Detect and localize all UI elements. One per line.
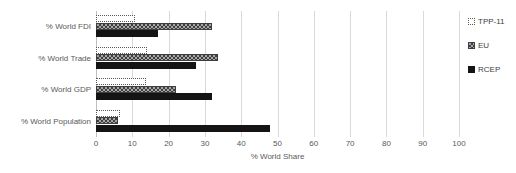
bar-rcep-world-population [96, 125, 270, 132]
category-label-world-trade: % World Trade [38, 54, 91, 64]
bar-eu-world-trade [96, 54, 218, 61]
x-tick-label-20: 20 [164, 139, 173, 148]
category-label-world-gdp: % World GDP [41, 85, 91, 95]
x-tick-label-70: 70 [346, 139, 355, 148]
bar-group-world-trade [96, 43, 459, 75]
value-axis: 0102030405060708090100 [96, 137, 459, 151]
bar-rcep-world-gdp [96, 93, 212, 100]
bar-tpp11-world-trade [96, 47, 147, 54]
bar-chart: % World FDI % World Trade % World GDP % … [0, 0, 516, 173]
legend-item-eu[interactable]: EU [468, 40, 516, 50]
legend-item-tpp11[interactable]: TPP-11 [468, 16, 516, 26]
x-tick-label-80: 80 [382, 139, 391, 148]
x-axis-title: % World Share [96, 152, 459, 161]
bar-rcep-world-trade [96, 62, 196, 69]
legend: TPP-11 EU RCEP [468, 16, 516, 88]
bar-eu-world-gdp [96, 86, 176, 93]
gridline-100 [459, 11, 460, 137]
legend-swatch-rcep-icon [468, 66, 475, 73]
bar-group-world-population [96, 106, 459, 138]
x-tick-label-60: 60 [309, 139, 318, 148]
bar-tpp11-world-gdp [96, 78, 146, 85]
x-tick-label-90: 90 [418, 139, 427, 148]
legend-label-tpp11: TPP-11 [478, 17, 505, 26]
x-tick-label-10: 10 [128, 139, 137, 148]
x-tick-label-100: 100 [452, 139, 465, 148]
category-label-world-fdi: % World FDI [46, 22, 91, 32]
x-tick-label-50: 50 [273, 139, 282, 148]
x-tick-label-30: 30 [200, 139, 209, 148]
bar-tpp11-world-fdi [96, 15, 135, 22]
legend-swatch-eu-icon [468, 42, 475, 49]
legend-swatch-tpp11-icon [468, 18, 475, 25]
bar-group-world-fdi [96, 11, 459, 43]
x-tick-label-0: 0 [94, 139, 98, 148]
category-axis: % World FDI % World Trade % World GDP % … [0, 11, 91, 137]
legend-item-rcep[interactable]: RCEP [468, 64, 516, 74]
category-label-world-population: % World Population [21, 117, 91, 127]
legend-label-eu: EU [478, 41, 489, 50]
bar-group-world-gdp [96, 74, 459, 106]
bar-eu-world-fdi [96, 23, 212, 30]
legend-label-rcep: RCEP [478, 65, 500, 74]
x-tick-label-40: 40 [237, 139, 246, 148]
bar-tpp11-world-population [96, 110, 120, 117]
bar-rcep-world-fdi [96, 30, 158, 37]
bar-eu-world-population [96, 117, 118, 124]
plot-area [96, 11, 459, 137]
